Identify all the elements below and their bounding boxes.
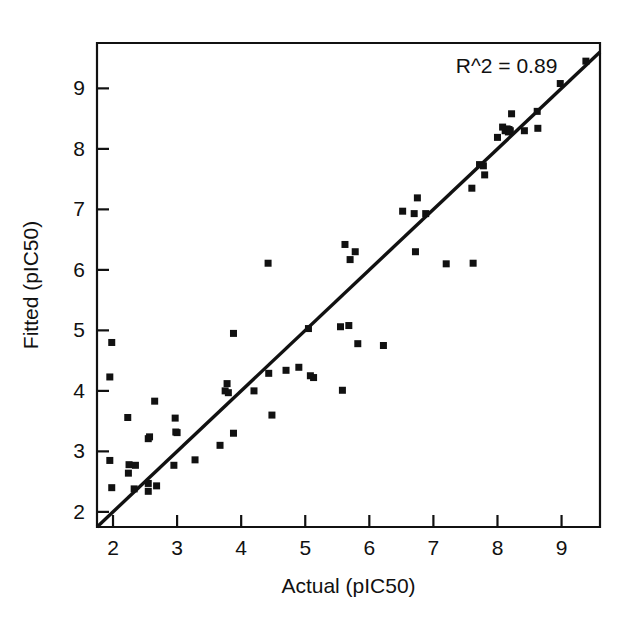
y-tick-label: 3 <box>73 439 85 462</box>
data-point <box>481 171 488 178</box>
data-point <box>468 185 475 192</box>
data-point <box>106 457 113 464</box>
data-point <box>265 370 272 377</box>
data-point <box>145 488 152 495</box>
data-point <box>283 367 290 374</box>
x-tick-label: 7 <box>428 536 440 559</box>
data-point <box>132 462 139 469</box>
data-point <box>124 414 131 421</box>
data-point <box>354 340 361 347</box>
data-point <box>411 210 418 217</box>
data-point <box>170 462 177 469</box>
data-point <box>125 470 132 477</box>
data-point <box>494 134 501 141</box>
data-point <box>414 194 421 201</box>
x-tick-label: 5 <box>299 536 311 559</box>
data-point <box>422 210 429 217</box>
x-tick-label: 4 <box>235 536 247 559</box>
data-point <box>310 374 317 381</box>
data-point <box>108 339 115 346</box>
x-axis-tick-labels: 23456789 <box>107 536 567 559</box>
data-point <box>380 342 387 349</box>
data-point <box>521 127 528 134</box>
data-point <box>534 125 541 132</box>
data-point <box>305 325 312 332</box>
data-point <box>508 110 515 117</box>
y-tick-label: 4 <box>73 379 85 402</box>
data-point <box>224 380 231 387</box>
data-point <box>470 260 477 267</box>
scatter-points <box>106 58 589 495</box>
data-point <box>399 208 406 215</box>
data-point <box>443 260 450 267</box>
data-point <box>174 429 181 436</box>
scatter-plot-figure: 23456789 23456789 R^2 = 0.89 Actual (pIC… <box>0 0 640 618</box>
y-axis-ticks <box>97 88 109 512</box>
x-tick-label: 8 <box>492 536 504 559</box>
data-point <box>480 162 487 169</box>
plot-canvas: 23456789 23456789 R^2 = 0.89 Actual (pIC… <box>0 0 640 618</box>
x-tick-label: 2 <box>107 536 119 559</box>
r-squared-annotation: R^2 = 0.89 <box>456 54 558 77</box>
y-axis-title: Fitted (pIC50) <box>19 221 42 349</box>
data-point <box>265 260 272 267</box>
data-point <box>250 387 257 394</box>
data-point <box>507 127 514 134</box>
data-point <box>557 80 564 87</box>
identity-line <box>97 52 600 527</box>
data-point <box>268 412 275 419</box>
data-point <box>534 108 541 115</box>
data-point <box>217 442 224 449</box>
data-point <box>352 248 359 255</box>
data-point <box>230 430 237 437</box>
data-point <box>126 461 133 468</box>
data-point <box>339 387 346 394</box>
y-tick-label: 9 <box>73 76 85 99</box>
data-point <box>151 398 158 405</box>
y-tick-label: 5 <box>73 318 85 341</box>
y-tick-label: 2 <box>73 500 85 523</box>
data-point <box>131 485 138 492</box>
data-point <box>341 241 348 248</box>
x-tick-label: 6 <box>363 536 375 559</box>
data-point <box>295 364 302 371</box>
data-point <box>153 482 160 489</box>
data-point <box>106 373 113 380</box>
x-tick-label: 3 <box>171 536 183 559</box>
x-axis-ticks <box>113 515 562 527</box>
y-tick-label: 8 <box>73 137 85 160</box>
data-point <box>230 330 237 337</box>
x-tick-label: 9 <box>556 536 568 559</box>
data-point <box>225 389 232 396</box>
data-point <box>337 323 344 330</box>
y-axis-tick-labels: 23456789 <box>73 76 85 523</box>
data-point <box>412 248 419 255</box>
x-axis-title: Actual (pIC50) <box>281 574 415 597</box>
data-point <box>172 415 179 422</box>
data-point <box>192 456 199 463</box>
y-tick-label: 7 <box>73 197 85 220</box>
identity-reference-line <box>97 52 600 527</box>
y-tick-label: 6 <box>73 258 85 281</box>
data-point <box>345 322 352 329</box>
data-point <box>108 484 115 491</box>
data-point <box>146 433 153 440</box>
data-point <box>145 480 152 487</box>
data-point <box>582 58 589 65</box>
data-point <box>347 256 354 263</box>
